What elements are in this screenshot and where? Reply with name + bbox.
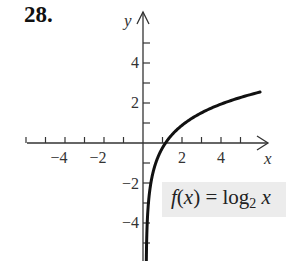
x-axis-label: x [263, 149, 272, 168]
y-tick-label: 2 [131, 94, 139, 111]
log-argument: x [262, 185, 271, 209]
function-variable: x [184, 185, 193, 209]
paren-open: ( [177, 185, 184, 209]
y-tick-label: −4 [122, 214, 139, 231]
y-axis-label: y [122, 11, 132, 30]
y-tick-label: −2 [122, 175, 139, 192]
plot-area: −4 −2 2 4 4 2 −2 −4 x y [0, 0, 287, 261]
x-tick-label: −4 [50, 149, 67, 166]
x-tick-label: 2 [178, 149, 186, 166]
x-tick-label: −2 [89, 149, 106, 166]
equals-log: = log [200, 185, 249, 209]
function-label: f(x) = log2 x [171, 185, 271, 212]
x-axis [27, 136, 268, 150]
x-ticks [26, 137, 241, 143]
y-tick-label: 4 [131, 54, 139, 71]
graph-figure: 28. −4 −2 2 4 4 2 −2 −4 x y f(x) = log2 … [0, 0, 287, 261]
x-tick-label: 4 [217, 149, 225, 166]
log-curve [146, 92, 260, 261]
